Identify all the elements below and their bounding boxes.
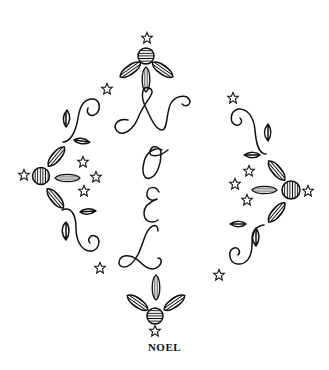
leaf-icon [230, 221, 246, 226]
petal-left [118, 59, 144, 81]
flower-center [33, 168, 50, 185]
star-icon [91, 172, 102, 183]
star-icon [95, 263, 106, 274]
leaf-icon [80, 208, 96, 214]
script-letter-e [144, 188, 159, 222]
petal-middle [152, 275, 160, 300]
noel-embroidery-pattern [0, 0, 329, 370]
flower-center [147, 308, 163, 324]
leaf-icon [74, 137, 91, 144]
star-icon [303, 186, 314, 197]
petal-upper [265, 158, 288, 183]
petal-right [150, 59, 176, 81]
bottom-flower [125, 275, 187, 336]
petal-lower [44, 186, 67, 211]
left-flower [19, 144, 102, 211]
top-flower [118, 33, 176, 93]
star-icon [230, 179, 241, 190]
petal-middle [55, 174, 80, 181]
petal-middle [252, 186, 277, 193]
star-icon [242, 195, 253, 206]
petal-left [125, 292, 151, 314]
star-icon [19, 170, 30, 181]
script-letter-l [119, 226, 161, 269]
right-upper-swirl [228, 93, 271, 158]
star-icon [150, 326, 161, 337]
left-lower-swirl [62, 208, 105, 273]
star-icon [228, 93, 239, 104]
flower-center [282, 181, 300, 199]
star-icon [244, 166, 255, 177]
star-icon [78, 157, 89, 168]
caption-label: NOEL [0, 341, 329, 353]
script-letter-o [143, 147, 168, 179]
star-icon [102, 84, 113, 95]
star-icon [142, 33, 153, 44]
script-letter-n [115, 88, 190, 134]
star-icon [79, 186, 90, 197]
petal-upper [45, 144, 68, 169]
left-upper-swirl [63, 84, 112, 145]
petal-right [162, 292, 188, 314]
right-flower [230, 158, 314, 225]
petal-lower [265, 200, 288, 225]
leaf-icon [244, 152, 260, 157]
star-icon [214, 270, 225, 281]
right-lower-swirl [214, 221, 264, 280]
flower-center [138, 48, 154, 64]
